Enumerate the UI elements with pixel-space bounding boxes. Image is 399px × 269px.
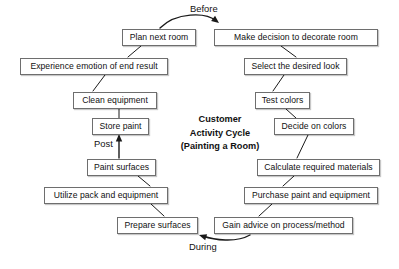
node-plan-next-room[interactable]: Plan next room xyxy=(122,29,196,46)
arrowhead-before-arc xyxy=(211,16,221,26)
node-experience-emotion-of-end-result[interactable]: Experience emotion of end result xyxy=(20,58,168,75)
edge-purchase-to-gain xyxy=(259,204,272,216)
node-calculate-required-materials[interactable]: Calculate required materials xyxy=(257,159,380,176)
node-test-colors[interactable]: Test colors xyxy=(255,92,310,109)
node-paint-surfaces[interactable]: Paint surfaces xyxy=(87,159,156,176)
node-label: Select the desired look xyxy=(251,62,339,71)
arrowhead-during-arc xyxy=(198,232,207,240)
node-label: Clean equipment xyxy=(82,96,148,105)
edge-make-decision-to-select xyxy=(281,46,296,57)
phase-label-post: Post xyxy=(94,139,113,148)
edge-during-arc xyxy=(203,235,250,240)
node-label: Experience emotion of end result xyxy=(30,62,157,71)
node-gain-advice-on-process-method[interactable]: Gain advice on process/method xyxy=(214,217,353,234)
node-label: Prepare surfaces xyxy=(124,221,190,230)
node-utilize-pack-and-equipment[interactable]: Utilize pack and equipment xyxy=(44,187,168,204)
edge-plan-to-experience xyxy=(128,46,141,57)
node-label: Gain advice on process/method xyxy=(222,221,344,230)
node-label: Test colors xyxy=(262,96,304,105)
node-label: Purchase paint and equipment xyxy=(252,191,370,200)
node-label: Make decision to decorate room xyxy=(234,33,358,42)
node-label: Decide on colors xyxy=(282,122,347,131)
center-title-line-3: (Painting a Room) xyxy=(167,140,273,154)
diagram-center-title: Customer Activity Cycle (Painting a Room… xyxy=(167,113,273,154)
edge-test-to-decide xyxy=(286,109,296,118)
edge-utilize-to-prepare xyxy=(151,204,164,216)
customer-activity-cycle-diagram: Customer Activity Cycle (Painting a Room… xyxy=(0,0,399,269)
edge-experience-to-clean xyxy=(93,75,105,91)
node-select-the-desired-look[interactable]: Select the desired look xyxy=(244,58,347,75)
node-store-paint[interactable]: Store paint xyxy=(92,118,149,135)
edge-before-arc xyxy=(160,15,216,28)
node-label: Calculate required materials xyxy=(264,163,372,172)
node-label: Paint surfaces xyxy=(94,163,149,172)
node-make-decision-to-decorate-room[interactable]: Make decision to decorate room xyxy=(214,29,378,46)
center-title-line-2: Activity Cycle xyxy=(167,127,273,141)
phase-label-before: Before xyxy=(190,4,218,13)
node-label: Store paint xyxy=(99,122,141,131)
edge-paint-to-utilize xyxy=(138,176,150,186)
node-label: Plan next room xyxy=(130,33,189,42)
node-clean-equipment[interactable]: Clean equipment xyxy=(73,92,157,109)
node-prepare-surfaces[interactable]: Prepare surfaces xyxy=(117,217,198,234)
edge-calculate-to-purchase xyxy=(283,176,294,186)
center-title-line-1: Customer xyxy=(167,113,273,127)
edge-select-to-test xyxy=(273,75,284,91)
node-decide-on-colors[interactable]: Decide on colors xyxy=(274,118,354,135)
node-purchase-paint-and-equipment[interactable]: Purchase paint and equipment xyxy=(244,187,378,204)
node-label: Utilize pack and equipment xyxy=(54,191,158,200)
arrowhead-paint-to-store-arrow xyxy=(116,134,122,142)
phase-label-during: During xyxy=(189,242,217,251)
edge-decide-to-calculate xyxy=(297,135,308,158)
